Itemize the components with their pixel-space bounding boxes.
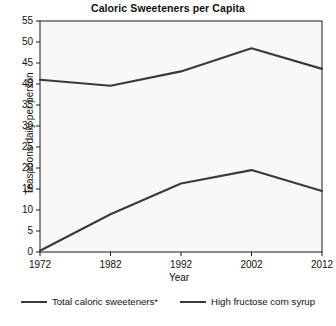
y-tick-label: 45	[22, 57, 34, 68]
y-tick-label: 10	[22, 204, 34, 215]
y-tick-label: 5	[27, 225, 33, 236]
legend-label: High fructose corn syrup	[211, 296, 315, 307]
y-axis-ticks: 0510152025303540455055	[22, 15, 40, 257]
x-tick-label: 2012	[311, 259, 334, 270]
y-tick-label: 50	[22, 36, 34, 47]
x-axis-ticks: 19721982199220022012	[29, 252, 334, 270]
chart-legend: Total caloric sweeteners*High fructose c…	[0, 296, 336, 307]
x-tick-label: 2002	[240, 259, 263, 270]
y-tick-label: 35	[22, 99, 34, 110]
y-tick-label: 40	[22, 78, 34, 89]
y-tick-label: 55	[22, 15, 34, 26]
chart-container: Caloric Sweeteners per Capita Teaspoons …	[0, 0, 336, 326]
legend-label: Total caloric sweeteners*	[52, 296, 158, 307]
legend-item[interactable]: High fructose corn syrup	[180, 296, 315, 307]
y-tick-label: 25	[22, 141, 34, 152]
legend-line-swatch	[180, 301, 206, 303]
y-tick-label: 20	[22, 162, 34, 173]
x-tick-label: 1982	[99, 259, 122, 270]
y-tick-label: 30	[22, 120, 34, 131]
x-axis-label: Year	[38, 272, 320, 283]
x-tick-label: 1992	[170, 259, 193, 270]
legend-line-swatch	[21, 301, 47, 303]
y-tick-label: 15	[22, 183, 34, 194]
y-tick-label: 0	[27, 246, 33, 257]
x-tick-label: 1972	[29, 259, 52, 270]
legend-item[interactable]: Total caloric sweeteners*	[21, 296, 158, 307]
